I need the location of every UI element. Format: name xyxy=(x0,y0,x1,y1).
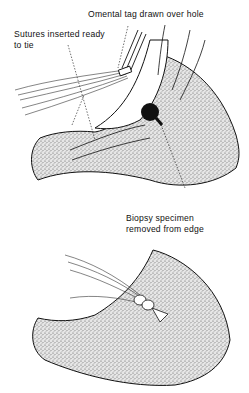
top-organ xyxy=(15,25,239,188)
bottom-organ xyxy=(33,250,230,385)
omental-tag-label: Omental tag drawn over hole xyxy=(88,9,204,19)
biopsy-label-line1: Biopsy specimen xyxy=(126,213,194,223)
surgical-illustration xyxy=(0,0,249,393)
sutures-label-line1: Sutures inserted ready xyxy=(14,29,105,39)
sutures-top xyxy=(15,70,128,115)
sutures-label-line2: to tie xyxy=(14,40,34,50)
biopsy-label-line2: removed from edge xyxy=(126,224,204,234)
